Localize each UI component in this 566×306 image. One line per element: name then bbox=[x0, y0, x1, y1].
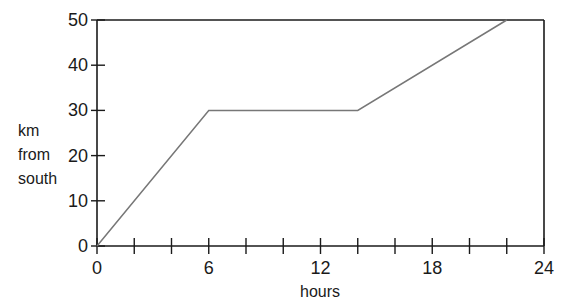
y-tick-label: 20 bbox=[68, 146, 88, 166]
x-tick-label: 18 bbox=[422, 258, 442, 278]
line-chart: 0102030405006121824 hours kmfromsouth bbox=[0, 0, 566, 306]
x-tick-label: 6 bbox=[204, 258, 214, 278]
axis-ticks bbox=[91, 20, 544, 254]
x-tick-label: 24 bbox=[534, 258, 554, 278]
data-series bbox=[97, 20, 507, 246]
y-tick-label: 40 bbox=[68, 55, 88, 75]
y-tick-label: 30 bbox=[68, 100, 88, 120]
plot-frame bbox=[97, 20, 544, 246]
x-tick-label: 0 bbox=[92, 258, 102, 278]
y-axis-label: kmfromsouth bbox=[18, 122, 57, 187]
x-tick-label: 12 bbox=[310, 258, 330, 278]
y-tick-label: 10 bbox=[68, 191, 88, 211]
y-tick-label: 50 bbox=[68, 10, 88, 30]
series-line bbox=[97, 20, 507, 246]
tick-labels: 0102030405006121824 bbox=[68, 10, 554, 278]
y-tick-label: 0 bbox=[78, 236, 88, 256]
x-axis-label: hours bbox=[300, 283, 340, 300]
